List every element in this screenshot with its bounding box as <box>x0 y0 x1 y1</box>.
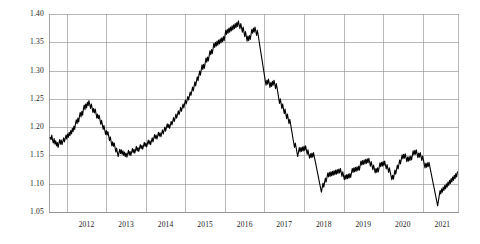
y-tick-label: 1.30 <box>8 66 44 75</box>
x-tick-label: 2015 <box>185 220 225 229</box>
x-tick-label: 2014 <box>146 220 186 229</box>
x-tick-label: 2013 <box>106 220 146 229</box>
y-tick-label: 1.20 <box>8 122 44 131</box>
x-tick-label: 2020 <box>383 220 423 229</box>
x-tick-label: 2019 <box>343 220 383 229</box>
x-tick-label: 2021 <box>422 220 462 229</box>
y-tick-label: 1.40 <box>8 9 44 18</box>
data-series-layer <box>50 21 457 206</box>
y-tick-label: 1.05 <box>8 207 44 216</box>
y-tick-label: 1.15 <box>8 150 44 159</box>
y-tick-label: 1.10 <box>8 179 44 188</box>
chart-container: 1.051.101.151.201.251.301.351.40 2012201… <box>0 0 480 244</box>
x-tick-label: 2012 <box>67 220 107 229</box>
x-tick-label: 2018 <box>304 220 344 229</box>
series-line-rate <box>50 21 457 206</box>
y-tick-label: 1.35 <box>8 37 44 46</box>
x-tick-label: 2017 <box>264 220 304 229</box>
gridlines <box>49 14 459 213</box>
line-chart-plot <box>0 0 480 244</box>
y-tick-label: 1.25 <box>8 94 44 103</box>
x-tick-label: 2016 <box>225 220 265 229</box>
plot-frame <box>49 14 459 213</box>
